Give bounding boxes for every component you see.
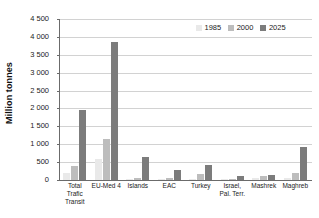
bar [237, 176, 244, 180]
x-tick-label: TotalTraficTransit [59, 182, 91, 206]
x-tick-label-line: Islands [122, 182, 154, 190]
bar [229, 179, 236, 180]
legend-item[interactable]: 2025 [260, 23, 285, 32]
y-tick-label: 4 500 [9, 15, 49, 23]
bar [260, 176, 267, 180]
legend: 198520002025 [196, 23, 286, 32]
legend-swatch [260, 25, 266, 31]
x-tick-label-line: Trafic [59, 190, 91, 198]
x-tick-label: Turkey [185, 182, 217, 190]
legend-swatch [196, 25, 202, 31]
legend-item[interactable]: 1985 [196, 23, 221, 32]
y-tick-label: 2 500 [9, 87, 49, 95]
bar [95, 159, 102, 180]
x-tick-label-line: Israel, [217, 182, 249, 190]
bar-group [217, 19, 249, 180]
bar [268, 175, 275, 180]
x-tick-label-line: Transit [59, 198, 91, 206]
y-tick-mark [57, 180, 60, 181]
legend-label: 2025 [269, 23, 286, 32]
bar-group [59, 19, 91, 180]
x-tick-label: Mashrek [248, 182, 280, 190]
bar [166, 178, 173, 180]
bar [174, 170, 181, 180]
y-tick-label: 3 000 [9, 69, 49, 77]
legend-item[interactable]: 2000 [228, 23, 253, 32]
bar [111, 42, 118, 180]
y-tick-label: 500 [9, 158, 49, 166]
y-tick-label: 1 500 [9, 122, 49, 130]
bar-group [122, 19, 154, 180]
x-tick-label: EU-Med 4 [91, 182, 123, 190]
bar [63, 173, 70, 180]
bar [205, 165, 212, 180]
bar [284, 178, 291, 180]
x-tick-label: Israel,Pal. Terr. [217, 182, 249, 198]
bar-group [154, 19, 186, 180]
bar-group [91, 19, 123, 180]
bar [189, 179, 196, 180]
y-tick-label: 3 500 [9, 51, 49, 59]
bar [197, 174, 204, 180]
legend-label: 2000 [237, 23, 254, 32]
y-tick-label: 0 [9, 176, 49, 184]
bars-layer [59, 19, 311, 180]
bar [126, 179, 133, 180]
bar-group [185, 19, 217, 180]
y-tick-label: 4 000 [9, 33, 49, 41]
bar-group [248, 19, 280, 180]
legend-swatch [228, 25, 234, 31]
x-tick-label-line: Mashrek [248, 182, 280, 190]
bar-chart: Million tonnes 05001 0001 5002 0002 5003… [0, 0, 319, 218]
x-tick-label: EAC [154, 182, 186, 190]
bar [292, 173, 299, 180]
bar [221, 179, 228, 180]
x-tick-label-line: Turkey [185, 182, 217, 190]
y-tick-label: 2 000 [9, 104, 49, 112]
x-tick-label-line: Total [59, 182, 91, 190]
x-tick-label-line: EAC [154, 182, 186, 190]
bar-group [280, 19, 312, 180]
bar [252, 178, 259, 180]
x-tick-label-line: EU-Med 4 [91, 182, 123, 190]
legend-label: 1985 [205, 23, 222, 32]
x-tick-label-line: Pal. Terr. [217, 190, 249, 198]
x-tick-label: Maghreb [280, 182, 312, 190]
x-axis-labels: TotalTraficTransitEU-Med 4IslandsEACTurk… [59, 182, 311, 218]
x-tick-label-line: Maghreb [280, 182, 312, 190]
bar [300, 147, 307, 180]
y-tick-label: 1 000 [9, 140, 49, 148]
bar [134, 178, 141, 180]
bar [79, 110, 86, 180]
bar [71, 166, 78, 180]
bar [158, 179, 165, 180]
bar [103, 139, 110, 180]
bar [142, 157, 149, 180]
x-tick-label: Islands [122, 182, 154, 190]
